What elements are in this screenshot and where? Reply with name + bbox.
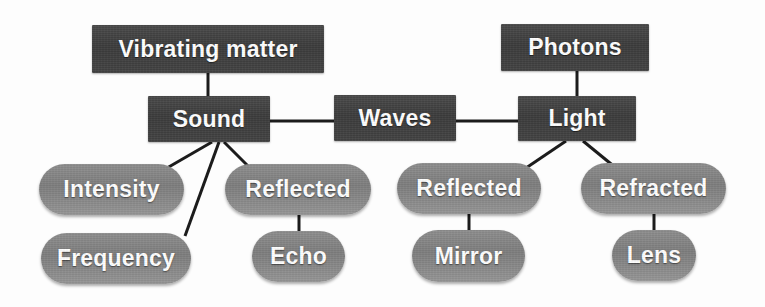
node-echo[interactable]: Echo xyxy=(252,231,345,282)
node-waves[interactable]: Waves xyxy=(334,95,456,141)
node-label-light-reflected: Reflected xyxy=(416,177,521,200)
node-vibrating-matter[interactable]: Vibrating matter xyxy=(92,25,324,73)
node-label-vibrating-matter: Vibrating matter xyxy=(118,38,297,61)
node-lens[interactable]: Lens xyxy=(612,230,696,281)
node-sound[interactable]: Sound xyxy=(148,96,270,142)
node-light-reflected[interactable]: Reflected xyxy=(397,163,541,214)
node-light[interactable]: Light xyxy=(518,96,636,141)
node-label-frequency: Frequency xyxy=(57,247,175,270)
node-label-intensity: Intensity xyxy=(63,178,159,201)
node-label-mirror: Mirror xyxy=(435,245,503,268)
node-mirror[interactable]: Mirror xyxy=(412,230,525,282)
node-label-waves: Waves xyxy=(358,107,431,130)
node-photons[interactable]: Photons xyxy=(501,24,649,71)
connector-sound-to-frequency xyxy=(185,142,219,236)
node-label-sound-reflected: Reflected xyxy=(245,178,350,201)
node-label-echo: Echo xyxy=(270,245,327,268)
connector-sound-to-intensity xyxy=(167,142,212,168)
node-label-refracted: Refracted xyxy=(600,177,708,200)
node-label-light: Light xyxy=(548,107,605,130)
concept-map-diagram: Vibrating matterPhotonsSoundWavesLightIn… xyxy=(0,0,765,307)
node-frequency[interactable]: Frequency xyxy=(41,233,191,284)
node-refracted[interactable]: Refracted xyxy=(581,163,726,214)
node-label-lens: Lens xyxy=(627,244,681,267)
connector-light-to-light-reflected xyxy=(526,141,566,168)
node-label-photons: Photons xyxy=(528,36,621,59)
node-intensity[interactable]: Intensity xyxy=(39,164,184,215)
node-label-sound: Sound xyxy=(173,108,246,131)
node-sound-reflected[interactable]: Reflected xyxy=(225,164,371,215)
